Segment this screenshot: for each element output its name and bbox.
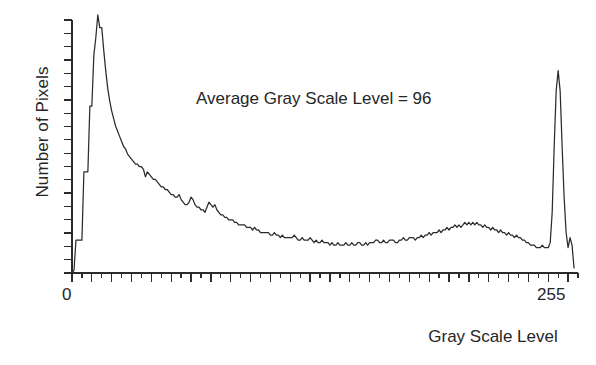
average-gray-level-annotation: Average Gray Scale Level = 96 (196, 89, 431, 109)
histogram-curve (72, 15, 574, 273)
histogram-figure: Number of Pixels Average Gray Scale Leve… (0, 0, 596, 365)
axes (64, 20, 578, 282)
plot-area (0, 0, 596, 365)
x-tick-label-0: 0 (62, 285, 71, 305)
data-series (72, 15, 574, 273)
x-axis-title: Gray Scale Level (400, 327, 586, 347)
x-tick-label-255: 255 (537, 285, 565, 305)
y-axis-title: Number of Pixels (33, 22, 53, 242)
